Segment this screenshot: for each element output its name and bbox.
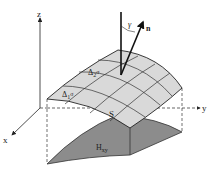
surface-label: S [109, 109, 114, 119]
projection-region [47, 115, 182, 164]
x-axis [12, 108, 40, 135]
surface-projection-diagram: z x y S Δ1σ Δ2σ Hxy n γ [0, 0, 209, 173]
y-axis-label: y [202, 103, 207, 113]
z-axis-label: z [37, 9, 41, 19]
x-axis-label: x [3, 135, 8, 145]
normal-label: n [146, 24, 151, 33]
angle-label: γ [128, 20, 132, 29]
